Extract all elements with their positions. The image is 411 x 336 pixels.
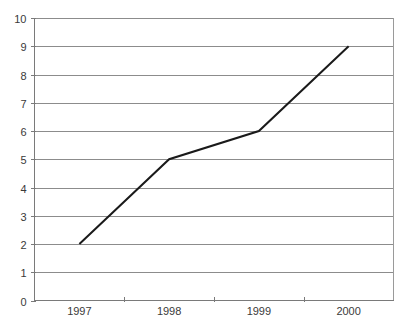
y-tick-label-5: 5 [20, 154, 26, 166]
y-tick-label-4: 4 [20, 183, 26, 195]
y-tick-label-3: 3 [20, 211, 26, 223]
y-tick-label-1: 1 [20, 267, 26, 279]
y-tick-label-2: 2 [20, 239, 26, 251]
y-tick-label-8: 8 [20, 70, 26, 82]
x-tick-label-1998: 1998 [157, 305, 181, 317]
y-tick-label-6: 6 [20, 126, 26, 138]
x-tick-label-1999: 1999 [247, 305, 271, 317]
x-tick-label-2000: 2000 [336, 305, 360, 317]
y-tick-label-0: 0 [20, 296, 26, 308]
x-tick-label-1997: 1997 [67, 305, 91, 317]
chart-canvas: 012345678910 1997199819992000 [0, 0, 411, 336]
y-tick-label-9: 9 [20, 41, 26, 53]
y-tick-label-7: 7 [20, 98, 26, 110]
line-chart: 012345678910 1997199819992000 [0, 0, 411, 336]
chart-background [0, 0, 411, 336]
y-tick-label-10: 10 [14, 13, 26, 25]
